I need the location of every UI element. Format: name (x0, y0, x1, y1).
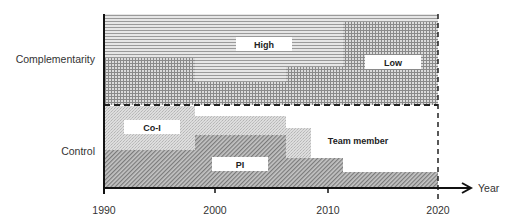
x-tick-label-2010: 2010 (316, 204, 340, 216)
control-panel: Co-I PI Team member (104, 106, 438, 188)
x-tick-label-1990: 1990 (92, 204, 116, 216)
x-tick-label-2020: 2020 (426, 204, 450, 216)
team-member-label: Team member (328, 136, 389, 146)
low-label: Low (384, 58, 403, 68)
y-label-control: Control (61, 145, 95, 157)
coi-label: Co-I (143, 123, 161, 133)
pi-label: PI (236, 160, 245, 170)
high-label: High (254, 40, 274, 50)
complementarity-panel: High Low (104, 14, 438, 105)
x-axis-label: Year (478, 182, 500, 194)
y-label-complementarity: Complementarity (16, 53, 96, 65)
x-tick-label-2000: 2000 (203, 204, 227, 216)
chart-canvas: High Low Co-I PI Team member Complementa… (0, 0, 520, 224)
